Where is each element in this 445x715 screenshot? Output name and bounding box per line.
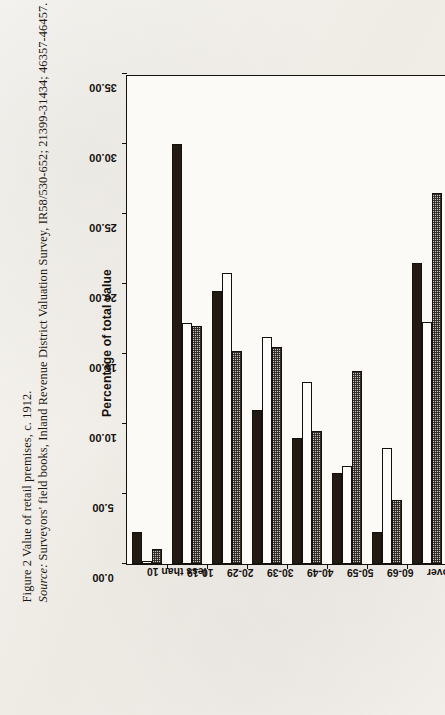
figure-caption: Figure 2 Value of retail premises, c. 19…	[19, 0, 52, 602]
category-label: 10-19	[187, 567, 214, 578]
bar-barrow-2	[222, 273, 232, 564]
bar-lancaster-5	[352, 371, 362, 564]
bar-barrow-5	[342, 466, 352, 564]
value-tick-label: 15.00	[89, 362, 117, 374]
bar-lancaster-3	[272, 347, 282, 564]
value-tick-label: 5.00	[92, 502, 113, 514]
bar-chart: Percentage of total value Rateable value…	[98, 43, 445, 643]
value-tick	[122, 493, 127, 494]
bar-accrington-3	[252, 410, 262, 564]
value-tick	[122, 283, 127, 284]
bar-accrington-4	[292, 438, 302, 564]
value-axis-title: Percentage of total value	[100, 43, 114, 643]
bar-accrington-7	[412, 263, 422, 564]
bar-lancaster-2	[232, 351, 242, 564]
bar-barrow-6	[382, 448, 392, 564]
caption-title: Figure 2 Value of retail premises, c. 19…	[19, 0, 35, 602]
value-tick	[122, 563, 127, 564]
value-tick	[122, 353, 127, 354]
value-tick-label: 30.00	[89, 152, 117, 164]
caption-source: Source: Surveyors' field books, Inland R…	[35, 0, 51, 602]
bar-lancaster-7	[432, 193, 442, 564]
value-tick-label: 0.00	[92, 572, 113, 584]
value-tick-label: 25.00	[89, 222, 117, 234]
value-tick	[122, 423, 127, 424]
value-tick	[122, 143, 127, 144]
bar-accrington-1	[172, 144, 182, 564]
bar-lancaster-6	[392, 500, 402, 564]
category-label: 60-69	[387, 567, 414, 578]
value-tick-label: 35.00	[89, 82, 117, 94]
category-label: 30-39	[267, 567, 294, 578]
bar-barrow-4	[302, 382, 312, 564]
bar-accrington-0	[132, 532, 142, 564]
bar-barrow-3	[262, 337, 272, 564]
value-tick-label: 10.00	[89, 432, 117, 444]
bar-accrington-5	[332, 473, 342, 564]
bar-lancaster-0	[152, 549, 162, 564]
plot-area: 0.005.0010.0015.0020.0025.0030.0035.00 l…	[126, 75, 445, 565]
bar-accrington-6	[372, 532, 382, 564]
bar-lancaster-1	[192, 326, 202, 564]
value-tick-label: 20.00	[89, 292, 117, 304]
bar-accrington-2	[212, 291, 222, 564]
bar-barrow-1	[182, 323, 192, 564]
category-label: 70 and over	[427, 567, 445, 578]
category-label: 20-29	[227, 567, 254, 578]
value-tick	[122, 73, 127, 74]
caption-source-text: Surveyors' field books, Inland Revenue D…	[36, 3, 50, 564]
bar-barrow-0	[142, 561, 152, 564]
category-label: 40-49	[307, 567, 334, 578]
category-label: 50-59	[347, 567, 374, 578]
caption-source-label: Source:	[36, 564, 50, 603]
bar-lancaster-4	[312, 431, 322, 564]
value-tick	[122, 213, 127, 214]
bar-barrow-7	[422, 322, 432, 564]
